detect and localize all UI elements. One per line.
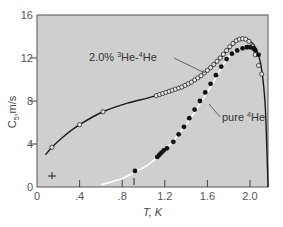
mixture-point [221,52,225,56]
pure-he4-point [182,124,187,129]
y-axis-title: C5,m/s [6,95,20,128]
mixture-point [224,48,228,52]
x-tick-label: 0 [34,190,40,202]
y-tick-label: 16 [21,9,33,21]
mixture-point [78,123,82,127]
mixture-point [256,63,260,67]
mixture-point [101,110,105,114]
y-tick-label: 4 [27,138,33,150]
pure-he4-point [133,168,138,173]
pure-he4-point [176,132,181,137]
pure-he4-point [187,116,192,121]
pure-he4-point [253,48,258,53]
pure-label: pure 4He [222,111,265,123]
svg-text:C5,m/s: C5,m/s [6,95,20,128]
pure-he4-point [240,46,245,51]
y-tick-label: 12 [21,52,33,64]
x-tick-label: 1.6 [200,190,215,202]
chart: 0.4.81.21.62.00481216 2.0% 3He-4He pure … [0,0,283,227]
pure-he4-point [192,107,197,112]
pure-he4-point [219,64,224,69]
pure-he4-point [208,81,213,86]
mixture-point [247,39,251,43]
pure-he4-point [171,139,176,144]
mixture-point [260,72,264,76]
pure-he4-point [203,90,208,95]
pure-he4-point [198,99,203,104]
x-tick-label: 1.2 [157,190,172,202]
x-tick-label: .8 [118,190,127,202]
pure-he4-point [256,52,261,57]
pure-he4-point [214,73,219,78]
mixture-point [50,145,54,149]
x-axis-title: T, K [143,206,163,218]
mixture-label: 2.0% 3He-4He [89,51,157,63]
pure-he4-point [235,48,240,53]
y-tick-label: 8 [27,95,33,107]
pure-he4-point [165,146,170,151]
mixture-point [218,56,222,60]
pure-he4-point [229,51,234,56]
y-tick-label: 0 [27,181,33,193]
pure-he4-point [224,57,229,62]
x-tick-label: 2.0 [242,190,257,202]
x-tick-label: .4 [75,190,84,202]
